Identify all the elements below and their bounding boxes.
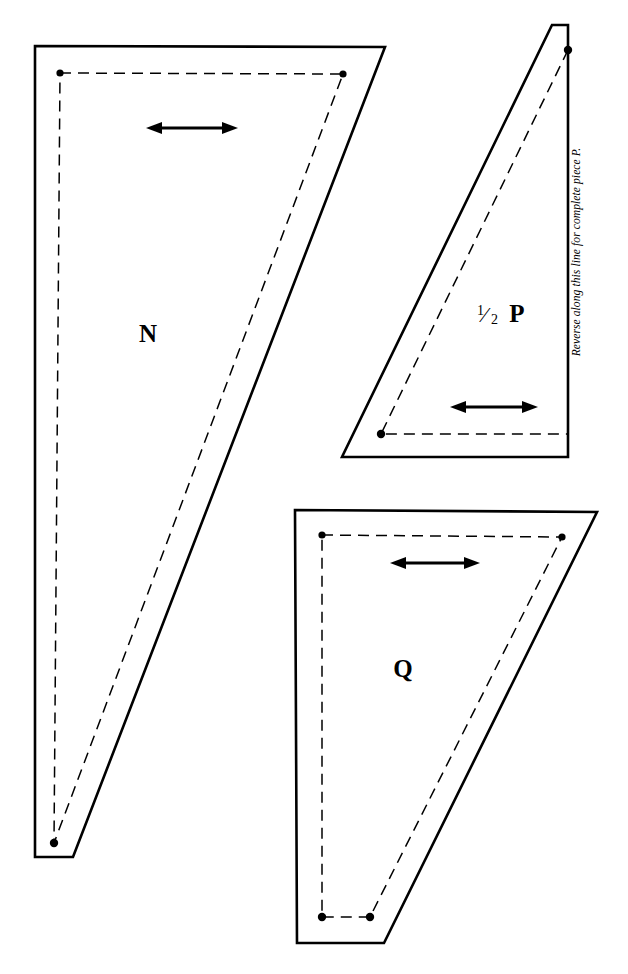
match-dot-q-bottom-left: [318, 913, 326, 921]
match-dot-p-top: [564, 46, 572, 54]
match-dot-q-bottom-right: [366, 913, 374, 921]
pattern-piece-p[interactable]: 1 ⁄ 2 P Reverse along this line for comp…: [342, 25, 583, 457]
match-dot-n-top-right: [339, 70, 346, 77]
cut-line-q: [295, 510, 597, 943]
match-dot-q-top-left: [318, 531, 325, 538]
piece-label-n: N: [139, 320, 157, 347]
fold-note-p: Reverse along this line for complete pie…: [570, 148, 583, 358]
pattern-canvas: N 1 ⁄ 2 P Reverse along this line for co…: [0, 0, 628, 974]
pattern-sheet: N 1 ⁄ 2 P Reverse along this line for co…: [0, 0, 628, 974]
pattern-piece-q[interactable]: Q: [295, 510, 597, 943]
cut-line-p: [342, 25, 568, 457]
piece-label-q: Q: [393, 655, 412, 682]
match-dot-n-bottom: [50, 839, 58, 847]
match-dot-n-top-left: [56, 69, 63, 76]
match-dot-p-bottom-left: [377, 430, 385, 438]
piece-label-p: P: [509, 300, 524, 327]
piece-label-p-fraction-denominator: 2: [491, 312, 498, 327]
match-dot-q-top-right: [558, 533, 565, 540]
